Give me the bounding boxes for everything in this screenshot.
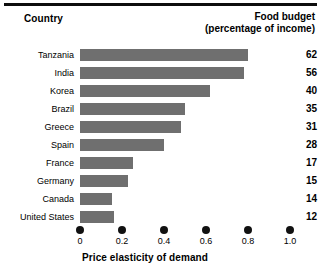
food-budget-value: 12 (286, 208, 317, 226)
chart-row: Spain28 (0, 136, 321, 154)
axis-tick-label: 0.8 (232, 236, 264, 246)
chart-row: United States12 (0, 208, 321, 226)
food-budget-value: 14 (286, 190, 317, 208)
axis-tick-label: 0.2 (106, 236, 138, 246)
bar-track (80, 82, 290, 100)
chart-row: France17 (0, 154, 321, 172)
food-budget-value: 40 (286, 82, 317, 100)
column-header-country: Country (24, 13, 63, 24)
food-budget-value: 17 (286, 154, 317, 172)
chart-row: India56 (0, 64, 321, 82)
food-budget-value: 62 (286, 46, 317, 64)
country-label: Germany (0, 172, 74, 190)
bar (80, 175, 128, 187)
bar-track (80, 64, 290, 82)
food-budget-value: 31 (286, 118, 317, 136)
bar-track (80, 208, 290, 226)
bar-track (80, 118, 290, 136)
food-budget-value: 35 (286, 100, 317, 118)
food-budget-value: 15 (286, 172, 317, 190)
bar (80, 103, 185, 115)
bar-track (80, 100, 290, 118)
country-label: Spain (0, 136, 74, 154)
top-divider (4, 3, 317, 6)
axis-tick-dot (244, 226, 252, 234)
country-label: Greece (0, 118, 74, 136)
column-header-food-budget-line2: (percentage of income) (205, 23, 315, 35)
chart-row: Germany15 (0, 172, 321, 190)
axis-tick-dot (286, 226, 294, 234)
chart-row: Canada14 (0, 190, 321, 208)
chart-row: Greece31 (0, 118, 321, 136)
country-label: Tanzania (0, 46, 74, 64)
bar-track (80, 172, 290, 190)
bar (80, 67, 244, 79)
axis-tick-label: 0 (64, 236, 96, 246)
chart-row: Brazil35 (0, 100, 321, 118)
chart-row: Tanzania62 (0, 46, 321, 64)
bar (80, 211, 114, 223)
bar-track (80, 190, 290, 208)
bar (80, 193, 112, 205)
bar (80, 139, 164, 151)
food-budget-value: 28 (286, 136, 317, 154)
x-axis-title: Price elasticity of demand (0, 252, 290, 263)
bar-track (80, 46, 290, 64)
food-budget-elasticity-chart: Country Food budget (percentage of incom… (0, 0, 321, 274)
country-label: Korea (0, 82, 74, 100)
bar-track (80, 136, 290, 154)
country-label: Canada (0, 190, 74, 208)
bar (80, 49, 248, 61)
country-label: France (0, 154, 74, 172)
country-label: United States (0, 208, 74, 226)
bar (80, 85, 210, 97)
bar (80, 157, 133, 169)
country-label: Brazil (0, 100, 74, 118)
axis-tick-label: 0.6 (190, 236, 222, 246)
country-label: India (0, 64, 74, 82)
bar-track (80, 154, 290, 172)
bar-rows-container: Tanzania62India56Korea40Brazil35Greece31… (0, 46, 321, 228)
axis-tick-label: 1.0 (274, 236, 306, 246)
axis-tick-dot (118, 226, 126, 234)
chart-row: Korea40 (0, 82, 321, 100)
axis-tick-dot (160, 226, 168, 234)
food-budget-value: 56 (286, 64, 317, 82)
axis-tick-dot (202, 226, 210, 234)
column-header-food-budget: Food budget (percentage of income) (205, 11, 315, 35)
bar (80, 121, 181, 133)
x-axis: Price elasticity of demand 00.20.40.60.8… (0, 226, 321, 274)
axis-tick-label: 0.4 (148, 236, 180, 246)
column-header-food-budget-line1: Food budget (254, 11, 315, 22)
axis-tick-dot (76, 226, 84, 234)
